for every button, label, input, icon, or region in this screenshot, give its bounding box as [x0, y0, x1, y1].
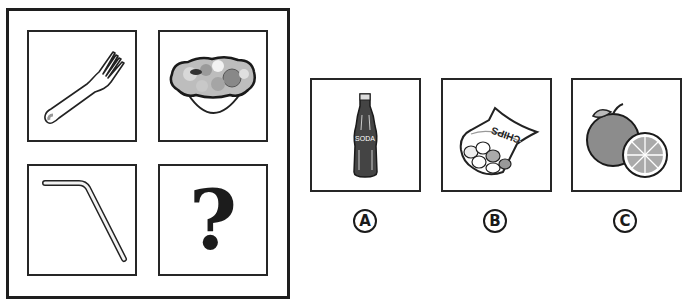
grid-cell-salad	[158, 30, 268, 142]
chips-bag-icon: CHIPS	[443, 80, 550, 190]
grid-cell-fork	[27, 30, 137, 142]
soda-text: SODA	[355, 135, 375, 142]
grid-cell-unknown: ?	[158, 164, 268, 276]
grid-cell-straw	[27, 164, 137, 276]
option-c-card[interactable]	[571, 78, 682, 192]
option-a-label[interactable]: A	[353, 209, 377, 233]
question-mark-icon: ?	[160, 166, 266, 274]
salad-bowl-icon	[160, 32, 266, 140]
option-a-card[interactable]: SODA	[310, 78, 421, 192]
option-b-card[interactable]: CHIPS	[441, 78, 552, 192]
option-c-label[interactable]: C	[613, 209, 637, 233]
orange-icon	[573, 80, 680, 190]
soda-bottle-icon: SODA	[312, 80, 419, 190]
straw-icon	[29, 166, 135, 274]
option-b-label[interactable]: B	[483, 209, 507, 233]
fork-icon	[29, 32, 135, 140]
